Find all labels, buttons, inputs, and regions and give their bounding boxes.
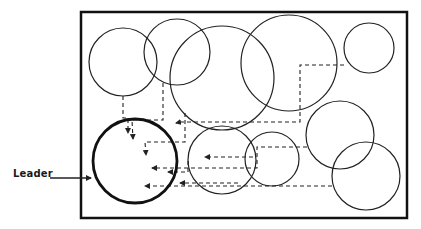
member-circle [344,23,394,73]
leader-circle-shape [93,119,177,203]
member-circle [306,101,374,169]
member-circle [241,15,337,111]
member-circles [89,15,400,210]
influence-arrow [132,83,163,139]
member-circle [245,132,299,186]
influence-arrow [145,113,185,155]
leader-label: Leader [13,168,53,179]
leader-diagram [0,0,421,229]
member-circle [170,26,274,130]
member-circle [332,142,400,210]
member-circle [188,126,256,194]
group-frame [81,12,407,218]
influence-arrow [123,96,128,133]
leader-circle [93,119,177,203]
frame-rect [81,12,407,218]
